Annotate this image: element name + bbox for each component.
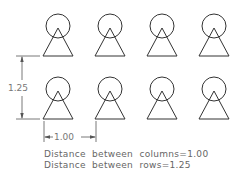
array-symbol	[43, 14, 73, 56]
column-spacing-label: 1.00	[54, 132, 74, 142]
circle-shape	[202, 77, 226, 101]
array-symbol	[43, 77, 73, 119]
circle-shape	[46, 14, 70, 38]
array-symbol	[147, 77, 177, 119]
circle-shape	[202, 14, 226, 38]
note-columns: Distance between columns=1.00	[44, 149, 208, 159]
circle-shape	[150, 77, 174, 101]
array-symbol	[95, 77, 125, 119]
circle-shape	[150, 14, 174, 38]
array-drawing: 1.25 1.00 Distance between columns=1.00 …	[0, 0, 244, 178]
circle-shape	[98, 77, 122, 101]
note-rows: Distance between rows=1.25	[44, 160, 191, 170]
array-symbol	[199, 77, 229, 119]
circle-shape	[98, 14, 122, 38]
arrow-right-icon	[90, 135, 96, 138]
row-spacing-label: 1.25	[8, 83, 28, 93]
array-symbol	[95, 14, 125, 56]
array-symbol	[199, 14, 229, 56]
arrow-left-icon	[44, 135, 50, 138]
circle-shape	[46, 77, 70, 101]
arrow-up-icon	[20, 56, 23, 62]
array-symbol	[147, 14, 177, 56]
arrow-down-icon	[20, 113, 23, 119]
array-pattern	[43, 14, 229, 119]
